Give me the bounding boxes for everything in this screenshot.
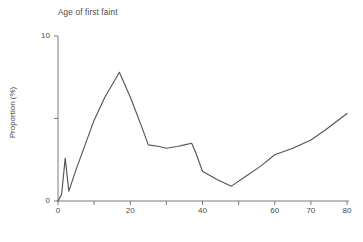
- x-axis-tick-label: 80: [335, 206, 359, 215]
- y-axis-ticks: [54, 36, 58, 201]
- x-axis-tick-label: 40: [191, 206, 215, 215]
- axis-lines: [58, 36, 349, 201]
- data-series-line: [58, 72, 347, 201]
- x-axis-tick-label: 70: [299, 206, 323, 215]
- x-axis-ticks: [58, 201, 347, 205]
- x-axis-tick-label: 0: [46, 206, 70, 215]
- chart-figure: Age of first faint Proportion (%) 020406…: [0, 0, 363, 242]
- y-axis-tick-label: 10: [28, 31, 50, 40]
- y-axis-tick-label: 0: [28, 196, 50, 205]
- x-axis-tick-label: 20: [118, 206, 142, 215]
- x-axis-tick-label: 60: [263, 206, 287, 215]
